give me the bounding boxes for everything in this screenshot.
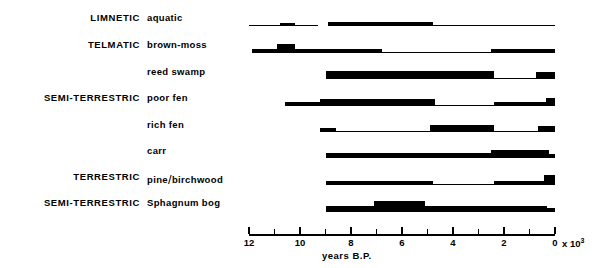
band-segment [433, 184, 494, 185]
band-segment [538, 126, 555, 132]
x-tick-major [299, 227, 301, 234]
band-segment [336, 131, 430, 132]
band-segment [491, 150, 548, 158]
band-segment [536, 72, 555, 79]
band-segment [326, 206, 374, 212]
x-tick-major [554, 227, 556, 234]
x-tick-label: 8 [339, 238, 363, 248]
x-tick-minor [427, 229, 429, 234]
band-segment [547, 208, 555, 212]
band-segment [549, 154, 555, 158]
band-segment [425, 206, 547, 212]
band-segment [374, 201, 425, 212]
x-tick-label: 4 [441, 238, 465, 248]
band-segment [326, 71, 494, 79]
x-axis-line [249, 234, 555, 236]
x-tick-minor [529, 229, 531, 234]
band-segment [433, 25, 555, 26]
band-segment [435, 105, 494, 106]
band-segment [326, 181, 433, 185]
band-segment [382, 52, 492, 53]
x-axis-title: years B.P. [322, 251, 372, 261]
x-axis-exponent-power: 3 [581, 237, 585, 244]
plot-area [0, 0, 602, 268]
x-axis-exponent-base: x 10 [562, 238, 581, 249]
band-segment [544, 175, 555, 185]
x-tick-label: 6 [390, 238, 414, 248]
band-segment [494, 181, 544, 185]
x-tick-label: 12 [237, 238, 261, 248]
band-segment [494, 78, 536, 79]
x-tick-major [503, 227, 505, 234]
band-segment [328, 22, 433, 26]
band-segment [285, 102, 321, 106]
band-segment [320, 128, 335, 132]
band-segment [546, 98, 555, 106]
x-tick-minor [478, 229, 480, 234]
band-segment [326, 153, 492, 158]
x-tick-label: 10 [288, 238, 312, 248]
x-tick-major [350, 227, 352, 234]
band-segment [249, 25, 280, 26]
x-tick-major [248, 227, 250, 234]
band-segment [430, 125, 494, 132]
x-tick-minor [274, 229, 276, 234]
band-segment [280, 23, 295, 26]
x-tick-label: 2 [492, 238, 516, 248]
band-segment [494, 102, 546, 106]
band-segment [277, 44, 295, 53]
x-tick-minor [376, 229, 378, 234]
chart-figure: LIMNETIC TELMATIC SEMI-TERRESTRIC TERRES… [0, 0, 602, 268]
x-tick-major [452, 227, 454, 234]
band-segment [295, 49, 382, 53]
x-tick-minor [325, 229, 327, 234]
band-segment [295, 25, 318, 26]
x-axis-exponent: x 103 [562, 237, 584, 249]
band-segment [491, 49, 555, 53]
x-tick-major [401, 227, 403, 234]
band-segment [252, 49, 278, 53]
band-segment [320, 99, 435, 106]
band-segment [494, 131, 539, 132]
